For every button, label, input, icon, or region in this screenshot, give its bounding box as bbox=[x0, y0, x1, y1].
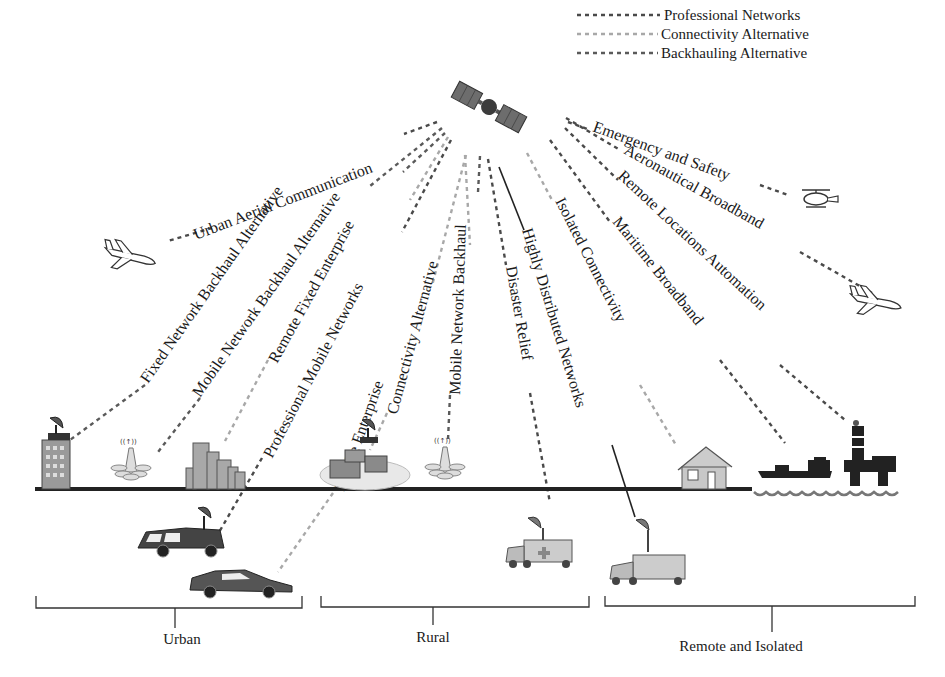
satellite-use-cases-diagram: Professional Networks Connectivity Alter… bbox=[0, 0, 945, 677]
link-line-remote-fixed-tail bbox=[225, 360, 268, 441]
house-icon bbox=[678, 447, 732, 489]
link-line-remote-automation-tail bbox=[780, 365, 845, 420]
link-label-isolated-connectivity: Isolated Connectivity bbox=[551, 195, 629, 326]
link-line-highly-distributed bbox=[499, 167, 524, 230]
region-label-urban: Urban bbox=[163, 631, 201, 647]
airplane-icon bbox=[846, 284, 904, 321]
link-lines bbox=[70, 118, 872, 572]
link-label-mobile-network-backhaul: Mobile Network Backhaul bbox=[446, 223, 469, 395]
bracket bbox=[605, 596, 915, 606]
link-line-emergency bbox=[568, 122, 590, 130]
cell-tower-icon: ((↑)) bbox=[425, 437, 465, 479]
van-dish-icon bbox=[138, 507, 224, 557]
link-line-emergency-tail bbox=[760, 185, 788, 195]
legend-item-professional-networks: Professional Networks bbox=[577, 7, 800, 23]
link-line-fixed-backhaul-tail bbox=[70, 385, 145, 440]
ambulance-truck-dish-icon bbox=[506, 517, 572, 568]
city-buildings-icon bbox=[186, 443, 245, 489]
link-line-remote-fixed bbox=[410, 137, 448, 200]
satellite-icon bbox=[451, 81, 527, 133]
oil-rig-icon bbox=[844, 420, 896, 486]
legend-label: Backhauling Alternative bbox=[661, 45, 808, 61]
link-line-mobile-network-backhaul bbox=[478, 156, 480, 192]
diagram-canvas: Professional Networks Connectivity Alter… bbox=[0, 0, 945, 677]
water-waves-icon bbox=[754, 492, 898, 495]
truck-dish-icon bbox=[610, 519, 685, 585]
legend-item-connectivity-alternative: Connectivity Alternative bbox=[577, 26, 809, 42]
helicopter-icon bbox=[802, 190, 838, 207]
bracket bbox=[321, 596, 589, 607]
airplane-icon bbox=[100, 238, 159, 277]
link-line-mobile-enterprise-tail bbox=[278, 493, 333, 572]
link-line-isolated-connectivity bbox=[527, 153, 552, 200]
link-line-mobile-network-backhaul-tail bbox=[448, 395, 450, 440]
legend-label: Connectivity Alternative bbox=[661, 26, 809, 42]
link-line-disaster-relief-tail bbox=[530, 393, 550, 503]
legend: Professional Networks Connectivity Alter… bbox=[577, 7, 809, 61]
region-urban: Urban bbox=[36, 596, 302, 647]
region-label-rural: Rural bbox=[416, 629, 449, 645]
region-label-remote-and-isolated: Remote and Isolated bbox=[679, 638, 803, 654]
region-rural: Rural bbox=[321, 596, 589, 645]
region-remote-and-isolated: Remote and Isolated bbox=[605, 596, 915, 654]
cell-tower-icon: ((↑)) bbox=[111, 438, 151, 480]
legend-item-backhauling-alternative: Backhauling Alternative bbox=[577, 45, 808, 61]
link-line-disaster-relief bbox=[488, 159, 506, 265]
link-label-disaster-relief: Disaster Relief bbox=[503, 265, 536, 363]
svg-text:((↑)): ((↑)) bbox=[434, 437, 451, 445]
link-line-urban-aerial bbox=[404, 122, 437, 134]
link-line-isolated-connectivity-tail bbox=[640, 385, 676, 445]
sports-car-icon bbox=[190, 570, 292, 598]
bracket bbox=[36, 596, 302, 608]
link-line-maritime-tail bbox=[720, 360, 785, 443]
link-line-highly-distributed-tail bbox=[612, 445, 635, 517]
svg-text:((↑)): ((↑)) bbox=[120, 438, 137, 446]
office-building-dish-icon bbox=[42, 417, 70, 489]
link-labels: Urban Aerial Communication Fixed Network… bbox=[137, 118, 771, 494]
legend-label: Professional Networks bbox=[664, 7, 800, 23]
ship-icon bbox=[758, 457, 832, 478]
link-label-connectivity-alternative: Connectivity Alternative bbox=[383, 259, 441, 416]
